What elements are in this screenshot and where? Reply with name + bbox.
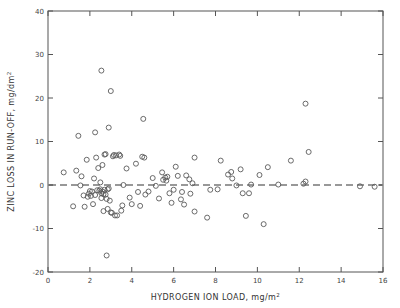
data-point xyxy=(208,187,213,192)
data-point xyxy=(92,176,97,181)
data-point xyxy=(303,101,308,106)
data-point xyxy=(175,173,180,178)
data-point xyxy=(205,215,210,220)
data-point xyxy=(133,161,138,166)
y-tick-label: 0 xyxy=(40,182,44,190)
data-point xyxy=(143,192,148,197)
data-point xyxy=(108,89,113,94)
data-point xyxy=(94,155,99,160)
x-tick-label: 10 xyxy=(253,277,262,285)
data-point xyxy=(61,170,66,175)
data-point xyxy=(178,197,183,202)
data-point xyxy=(91,202,96,207)
data-point xyxy=(127,195,132,200)
data-point xyxy=(226,172,231,177)
data-point xyxy=(229,169,234,174)
data-point xyxy=(106,125,111,130)
data-point xyxy=(156,196,161,201)
data-point xyxy=(129,202,134,207)
x-tick-label: 2 xyxy=(88,277,92,285)
data-point xyxy=(169,200,174,205)
data-point xyxy=(247,191,252,196)
data-point xyxy=(182,202,187,207)
scatter-chart-figure: 0246810121416-20-10010203040HYDROGEN ION… xyxy=(0,0,400,308)
data-point xyxy=(188,191,193,196)
data-point xyxy=(104,253,109,258)
data-point xyxy=(79,174,84,179)
data-point xyxy=(100,162,105,167)
x-tick-label: 8 xyxy=(213,277,217,285)
data-point xyxy=(82,204,87,209)
y-tick-label: -10 xyxy=(33,225,44,233)
data-point xyxy=(215,187,220,192)
data-point xyxy=(153,183,158,188)
y-tick-label: 40 xyxy=(35,8,44,16)
x-tick-label: 16 xyxy=(379,277,388,285)
data-point xyxy=(150,176,155,181)
data-point xyxy=(180,189,185,194)
data-point xyxy=(265,165,270,170)
data-point xyxy=(93,130,98,135)
data-point xyxy=(288,158,293,163)
y-axis-label: ZINC LOSS IN RUN-OFF, mg/dm2 xyxy=(6,71,16,211)
data-point xyxy=(238,167,243,172)
data-point xyxy=(160,170,165,175)
y-tick-label: 20 xyxy=(35,95,44,103)
data-point xyxy=(76,133,81,138)
data-point xyxy=(141,116,146,121)
scatter-plot-svg: 0246810121416-20-10010203040HYDROGEN ION… xyxy=(0,0,400,308)
data-point xyxy=(99,68,104,73)
plot-frame xyxy=(48,11,383,272)
x-tick-label: 0 xyxy=(46,277,50,285)
data-point xyxy=(138,203,143,208)
data-point xyxy=(257,173,262,178)
x-tick-label: 12 xyxy=(295,277,304,285)
data-point xyxy=(173,164,178,169)
data-point xyxy=(240,191,245,196)
data-point xyxy=(120,203,125,208)
data-point xyxy=(136,189,141,194)
data-point xyxy=(171,187,176,192)
data-point xyxy=(243,213,248,218)
y-tick-label: -20 xyxy=(33,269,44,277)
x-axis-label: HYDROGEN ION LOAD, mg/m2 xyxy=(151,292,280,302)
y-tick-label: 10 xyxy=(35,138,44,146)
data-point xyxy=(167,191,172,196)
data-point xyxy=(306,149,311,154)
data-point xyxy=(119,208,124,213)
x-tick-label: 4 xyxy=(130,277,135,285)
data-point xyxy=(146,189,151,194)
data-point xyxy=(124,166,129,171)
x-tick-label: 14 xyxy=(337,277,346,285)
data-point xyxy=(74,168,79,173)
y-tick-label: 30 xyxy=(35,51,44,59)
data-point xyxy=(84,157,89,162)
data-point xyxy=(261,222,266,227)
data-point xyxy=(218,158,223,163)
x-tick-label: 6 xyxy=(171,277,176,285)
data-point xyxy=(71,204,76,209)
data-point xyxy=(230,176,235,181)
data-point xyxy=(98,180,103,185)
data-point xyxy=(192,209,197,214)
data-point xyxy=(192,155,197,160)
